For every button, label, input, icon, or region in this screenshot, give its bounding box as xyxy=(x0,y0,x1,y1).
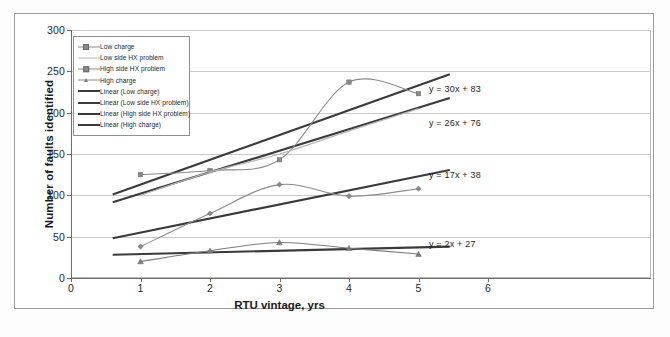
legend-item[interactable]: Linear (Low side HX problem) xyxy=(78,97,184,108)
legend-label: Low charge xyxy=(100,43,135,50)
legend-key-icon xyxy=(78,97,100,108)
legend: Low chargeLow side HX problemHigh side H… xyxy=(73,36,190,136)
x-tick-label: 6 xyxy=(485,282,491,294)
legend-label: Linear (High charge) xyxy=(100,121,161,128)
trendline-equation-label: y = 26x + 76 xyxy=(429,118,481,128)
trendline-equation-label: y = 30x + 83 xyxy=(429,84,481,94)
series-line xyxy=(141,242,419,261)
x-tick-label: 5 xyxy=(416,282,422,294)
square-marker-icon xyxy=(83,44,89,50)
x-tick-label: 4 xyxy=(346,282,352,294)
data-point-marker xyxy=(416,91,420,95)
legend-key-icon xyxy=(78,75,100,86)
legend-key-icon xyxy=(78,86,100,97)
legend-item[interactable]: High side HX problem xyxy=(78,63,184,74)
legend-key-icon xyxy=(78,108,100,119)
legend-key-icon xyxy=(78,119,100,130)
y-axis-label: Number of faults identified xyxy=(43,80,55,228)
data-point-marker xyxy=(138,172,142,176)
y-tick-label: 50 xyxy=(35,231,65,243)
y-tick-label: 300 xyxy=(35,24,65,36)
legend-label: Linear (Low side HX problem) xyxy=(100,99,189,106)
x-tick-label: 3 xyxy=(277,282,283,294)
legend-label: High side HX problem xyxy=(100,65,165,72)
legend-key-icon xyxy=(78,63,100,74)
trendline xyxy=(113,247,450,255)
data-point-marker xyxy=(347,80,351,84)
legend-item[interactable]: Linear (High charge) xyxy=(78,119,184,130)
legend-label: Low side HX problem xyxy=(100,54,164,61)
legend-item[interactable]: Linear (High side HX problem) xyxy=(78,108,184,119)
chart-page: 0501001502002503000123456 Number of faul… xyxy=(0,0,670,337)
legend-label: Linear (High side HX problem) xyxy=(100,110,190,117)
legend-item[interactable]: High charge xyxy=(78,75,184,86)
triangle-marker-icon xyxy=(84,78,88,82)
legend-item[interactable]: Low side HX problem xyxy=(78,52,184,63)
x-axis-label: RTU vintage, yrs xyxy=(71,299,488,311)
x-tick-label: 2 xyxy=(207,282,213,294)
data-point-marker xyxy=(277,182,282,187)
data-point-marker xyxy=(416,186,421,191)
x-tick-label: 1 xyxy=(138,282,144,294)
legend-label: High charge xyxy=(100,77,136,84)
data-point-marker xyxy=(346,194,351,199)
legend-item[interactable]: Linear (Low charge) xyxy=(78,86,184,97)
legend-key-icon xyxy=(78,41,100,52)
legend-label: Linear (Low charge) xyxy=(100,88,160,95)
trendline-equation-label: y = 17x + 38 xyxy=(429,170,481,180)
y-tick-label: 250 xyxy=(35,65,65,77)
diamond-marker-icon xyxy=(83,66,89,72)
trendline xyxy=(113,170,450,238)
x-tick-label: 0 xyxy=(68,282,74,294)
y-tick-label: 0 xyxy=(35,272,65,284)
data-point-marker xyxy=(277,158,281,162)
legend-key-icon xyxy=(78,52,100,63)
series-line xyxy=(141,184,419,246)
data-point-marker xyxy=(138,244,143,249)
data-point-marker xyxy=(207,211,212,216)
trendline-equation-label: y = 2x + 27 xyxy=(429,239,476,249)
x-axis-line xyxy=(71,278,651,279)
legend-item[interactable]: Low charge xyxy=(78,41,184,52)
